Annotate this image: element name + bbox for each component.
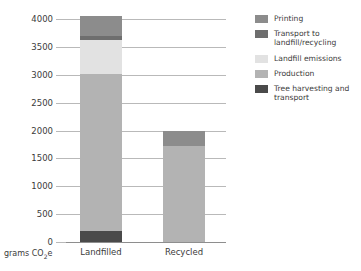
y-axis-tick: [56, 131, 66, 132]
y-axis-tick: [56, 19, 66, 20]
x-axis-label-recycled: Recycled: [144, 247, 224, 257]
x-axis-label-landfilled: Landfilled: [61, 247, 141, 257]
y-axis-tick-label: 500: [37, 209, 53, 219]
y-axis-tick-label: 1500: [31, 153, 53, 163]
bar-segment[interactable]: [163, 131, 205, 146]
bar-segment[interactable]: [80, 74, 122, 231]
y-axis-tick: [56, 186, 66, 187]
legend-item-label: Printing: [274, 14, 303, 23]
legend-swatch-icon: [255, 70, 268, 78]
y-axis-title-subscript: 2: [44, 253, 48, 260]
legend-item[interactable]: Production: [255, 69, 361, 78]
legend-item[interactable]: Printing: [255, 14, 361, 23]
legend-item[interactable]: Landfill emissions: [255, 54, 361, 63]
y-axis-tick-label: 3500: [31, 42, 53, 52]
y-axis-tick-label: 1000: [31, 181, 53, 191]
y-axis-tick-label: 2000: [31, 126, 53, 136]
y-axis-tick: [56, 47, 66, 48]
y-axis-title: grams CO2e: [4, 249, 52, 260]
bar-landfilled[interactable]: [80, 16, 122, 242]
y-axis-tick-label: 4000: [31, 14, 53, 24]
bar-segment[interactable]: [80, 40, 122, 73]
y-axis-tick: [56, 103, 66, 104]
legend-item-label: Production: [274, 69, 314, 78]
bar-segment[interactable]: [80, 231, 122, 242]
bar-segment[interactable]: [80, 16, 122, 36]
legend-item[interactable]: Transport to landfill/recycling: [255, 29, 361, 47]
bar-recycled[interactable]: [163, 131, 205, 242]
legend-swatch-icon: [255, 30, 268, 38]
y-axis-tick: [56, 214, 66, 215]
y-axis-tick: [56, 242, 66, 243]
chart-legend: PrintingTransport to landfill/recyclingL…: [255, 14, 361, 108]
y-axis-title-text: grams CO2e: [4, 249, 52, 258]
y-axis-tick: [56, 158, 66, 159]
legend-item[interactable]: Tree harvesting and transport: [255, 84, 361, 102]
legend-item-label: Tree harvesting and transport: [274, 84, 361, 102]
y-axis-tick-label: 2500: [31, 98, 53, 108]
axis-baseline: [66, 242, 226, 243]
legend-item-label: Transport to landfill/recycling: [274, 29, 361, 47]
y-axis-tick-label: 3000: [31, 70, 53, 80]
legend-swatch-icon: [255, 55, 268, 63]
bar-segment[interactable]: [163, 146, 205, 242]
legend-item-label: Landfill emissions: [274, 54, 342, 63]
legend-swatch-icon: [255, 15, 268, 23]
plot-area: [66, 19, 226, 242]
legend-swatch-icon: [255, 85, 268, 93]
chart-figure: 05001000150020002500300035004000 Landfil…: [0, 0, 361, 271]
y-axis-tick-label: 0: [48, 237, 53, 247]
y-axis-tick: [56, 75, 66, 76]
